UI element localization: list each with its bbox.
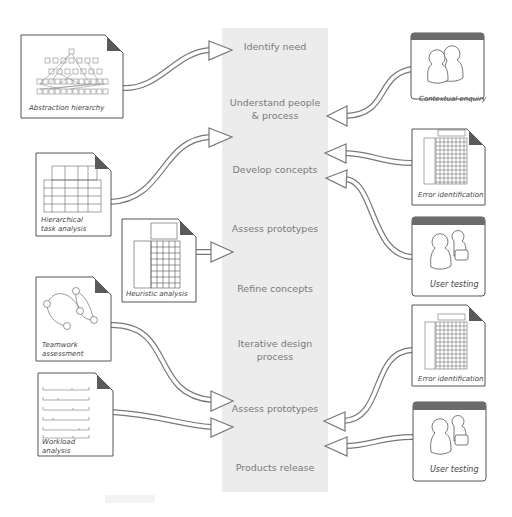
arrow-error-to-develop: [325, 144, 412, 163]
caption-abstraction-hierarchy: Abstraction hierarchy: [29, 104, 104, 113]
caption-error-identification-1: Error identification: [418, 191, 483, 200]
arrow-usertest-to-develop: [326, 170, 412, 257]
caption-heuristic-analysis: Heuristic analysis: [126, 290, 188, 299]
caption-error-identification-2: Error identification: [418, 375, 483, 384]
faint-artifact: [105, 495, 155, 503]
caption-user-testing-1: User testing: [430, 280, 479, 289]
arrow-abstraction-to-identify: [122, 41, 232, 88]
caption-user-testing-2: User testing: [430, 465, 479, 474]
doc-error-identification-2: [412, 305, 485, 386]
window-contextual-enquiry: [411, 33, 484, 99]
caption-teamwork-assessment: Teamwork assessment: [42, 341, 87, 359]
arrow-hta-to-develop: [110, 128, 232, 202]
arrow-heuristic-to-assess: [196, 242, 233, 262]
arrow-contextual-to-understand: [327, 69, 412, 126]
arrow-teamwork-to-assess: [112, 325, 233, 411]
caption-contextual-enquiry: Contextual enquiry: [419, 95, 486, 104]
caption-workload-analysis: Workload analysis: [42, 438, 82, 456]
caption-hierarchical-task-analysis: Hierarchical task analysis: [41, 216, 96, 234]
arrow-workload-to-assess: [112, 412, 233, 437]
arrow-error2-to-assess: [324, 350, 412, 431]
arrow-usertest2-to-assess: [325, 437, 412, 456]
